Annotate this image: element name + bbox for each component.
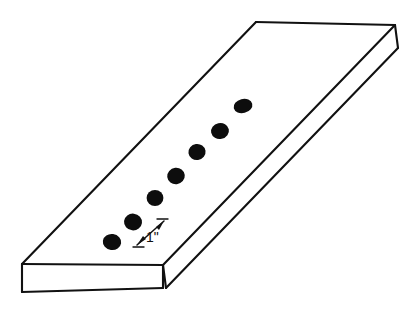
- hole-5: [147, 190, 164, 206]
- top-face-near-edge: [22, 264, 163, 265]
- technical-illustration: 1": [0, 0, 420, 314]
- dimension-label: 1": [146, 229, 159, 245]
- slab-diagram-svg: 1": [0, 0, 420, 314]
